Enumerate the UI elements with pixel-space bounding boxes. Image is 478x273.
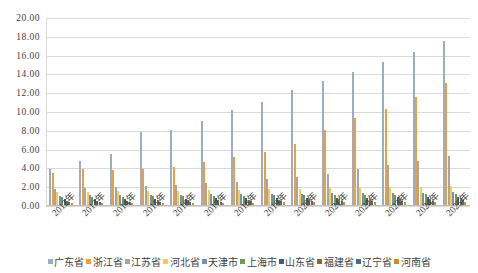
- legend-label: 浙江省: [93, 254, 123, 269]
- chart-legend: 广东省浙江省江苏省河北省天津市上海市山东省福建省辽宁省河南省: [0, 252, 478, 270]
- legend-label: 天津市: [208, 254, 238, 269]
- bar-group: [379, 18, 409, 206]
- legend-swatch-icon: [48, 259, 53, 264]
- legend-item[interactable]: 江苏省: [125, 254, 162, 269]
- y-axis-tick-label: 4.00: [21, 163, 40, 173]
- legend-item[interactable]: 福建省: [317, 254, 354, 269]
- bar-group: [167, 18, 197, 206]
- y-axis-tick-label: 20.00: [16, 13, 40, 23]
- bar-group: [46, 18, 76, 206]
- legend-item[interactable]: 山东省: [279, 254, 316, 269]
- bar-groups: [46, 18, 470, 206]
- y-axis-tick-label: 0.00: [21, 201, 40, 211]
- legend-swatch-icon: [125, 259, 130, 264]
- bar-group: [137, 18, 167, 206]
- bar-group: [349, 18, 379, 206]
- bar-group: [107, 18, 137, 206]
- legend-label: 山东省: [285, 254, 315, 269]
- legend-item[interactable]: 浙江省: [86, 254, 123, 269]
- legend-label: 广东省: [54, 254, 84, 269]
- legend-item[interactable]: 广东省: [48, 254, 85, 269]
- legend-label: 上海市: [247, 254, 277, 269]
- y-axis-tick-label: 18.00: [16, 32, 40, 42]
- legend-label: 河南省: [401, 254, 431, 269]
- legend-item[interactable]: 河北省: [163, 254, 200, 269]
- bar-group: [319, 18, 349, 206]
- y-axis-tick-labels: 0.002.004.006.008.0010.0012.0014.0016.00…: [0, 18, 44, 206]
- x-axis-tick-labels: 2012年2013年2014年2015年2016年2017年2018年2019年…: [46, 207, 470, 249]
- legend-item[interactable]: 辽宁省: [356, 254, 393, 269]
- legend-item[interactable]: 上海市: [240, 254, 277, 269]
- bar-chart: 0.002.004.006.008.0010.0012.0014.0016.00…: [0, 0, 478, 273]
- x-axis-line: [46, 205, 470, 206]
- legend-item[interactable]: 河南省: [394, 254, 431, 269]
- y-axis-tick-label: 14.00: [16, 69, 40, 79]
- legend-label: 河北省: [170, 254, 200, 269]
- y-axis-tick-label: 2.00: [21, 182, 40, 192]
- legend-swatch-icon: [279, 259, 284, 264]
- plot-area: [46, 18, 470, 206]
- bar-group: [258, 18, 288, 206]
- legend-item[interactable]: 天津市: [202, 254, 239, 269]
- legend-swatch-icon: [240, 259, 245, 264]
- y-axis-tick-label: 12.00: [16, 88, 40, 98]
- legend-label: 福建省: [324, 254, 354, 269]
- y-axis-tick-label: 16.00: [16, 51, 40, 61]
- legend-swatch-icon: [202, 259, 207, 264]
- legend-label: 江苏省: [131, 254, 161, 269]
- y-axis-tick-label: 6.00: [21, 145, 40, 155]
- legend-swatch-icon: [317, 259, 322, 264]
- legend-swatch-icon: [394, 259, 399, 264]
- legend-swatch-icon: [163, 259, 168, 264]
- bar-group: [409, 18, 439, 206]
- legend-label: 辽宁省: [362, 254, 392, 269]
- bar-group: [288, 18, 318, 206]
- y-axis-tick-label: 8.00: [21, 126, 40, 136]
- legend-swatch-icon: [86, 259, 91, 264]
- bar-group: [228, 18, 258, 206]
- y-axis-tick-label: 10.00: [16, 107, 40, 117]
- bar-group: [76, 18, 106, 206]
- legend-swatch-icon: [356, 259, 361, 264]
- bar-group: [197, 18, 227, 206]
- bar-group: [440, 18, 470, 206]
